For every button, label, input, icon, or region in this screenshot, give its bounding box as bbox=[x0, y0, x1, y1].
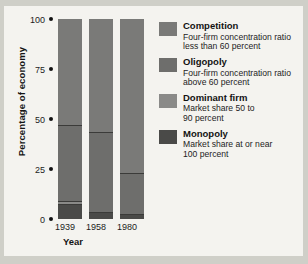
bar-1980[interactable] bbox=[120, 19, 144, 219]
legend-label: Dominant firm bbox=[183, 93, 255, 104]
bar-segment-oligopoly bbox=[120, 173, 144, 214]
chart-figure: Percentage of economy 100 75 50 25 0 193… bbox=[0, 0, 308, 264]
bar-segment-competition bbox=[58, 19, 82, 125]
y-tick-label: 75 bbox=[35, 65, 45, 75]
legend-text-block: Dominant firm Market share 50 to 90 perc… bbox=[183, 93, 255, 124]
y-tick-100: 100 bbox=[0, 14, 53, 24]
y-tick-dot-icon bbox=[49, 17, 53, 21]
y-tick-75: 75 bbox=[0, 64, 53, 74]
legend-description-line2: 100 percent bbox=[183, 150, 272, 160]
y-tick-0: 0 bbox=[0, 214, 53, 224]
legend-swatch-icon bbox=[159, 94, 177, 108]
y-tick-dot-icon bbox=[49, 67, 53, 71]
y-tick-dot-icon bbox=[49, 217, 53, 221]
x-tick-1958: 1958 bbox=[79, 222, 113, 232]
bar-segment-monopoly bbox=[120, 214, 144, 219]
y-axis-title: Percentage of economy bbox=[16, 37, 27, 167]
bar-segment-monopoly bbox=[58, 204, 82, 219]
legend-text-block: Oligopoly Four-firm concentration ratio … bbox=[183, 57, 291, 88]
legend-text-block: Monopoly Market share at or near 100 per… bbox=[183, 129, 272, 160]
legend-label: Monopoly bbox=[183, 129, 272, 140]
legend-description-line2: above 60 percent bbox=[183, 78, 291, 88]
plot-area bbox=[55, 19, 150, 219]
y-tick-label: 50 bbox=[35, 115, 45, 125]
x-tick-1980: 1980 bbox=[110, 222, 144, 232]
legend-swatch-icon bbox=[159, 130, 177, 144]
y-tick-dot-icon bbox=[49, 167, 53, 171]
bar-1939[interactable] bbox=[58, 19, 82, 219]
legend-item-monopoly[interactable]: Monopoly Market share at or near 100 per… bbox=[159, 129, 304, 160]
y-tick-label: 100 bbox=[30, 15, 45, 25]
legend-swatch-icon bbox=[159, 22, 177, 36]
legend-text-block: Competition Four-firm concentration rati… bbox=[183, 21, 291, 52]
legend-label: Oligopoly bbox=[183, 57, 291, 68]
y-tick-25: 25 bbox=[0, 164, 53, 174]
legend-label: Competition bbox=[183, 21, 291, 32]
y-tick-50: 50 bbox=[0, 114, 53, 124]
y-tick-label: 25 bbox=[35, 165, 45, 175]
legend-item-oligopoly[interactable]: Oligopoly Four-firm concentration ratio … bbox=[159, 57, 304, 88]
legend-item-competition[interactable]: Competition Four-firm concentration rati… bbox=[159, 21, 304, 52]
bar-segment-competition bbox=[120, 19, 144, 173]
chart-legend: Competition Four-firm concentration rati… bbox=[159, 21, 304, 165]
x-axis-title: Year bbox=[48, 236, 98, 247]
x-tick-1939: 1939 bbox=[48, 222, 82, 232]
legend-item-dominant-firm[interactable]: Dominant firm Market share 50 to 90 perc… bbox=[159, 93, 304, 124]
y-tick-label: 0 bbox=[40, 215, 45, 225]
legend-swatch-icon bbox=[159, 58, 177, 72]
bar-segment-competition bbox=[89, 19, 113, 132]
bar-segment-oligopoly bbox=[58, 125, 82, 201]
legend-description-line2: less than 60 percent bbox=[183, 42, 291, 52]
bar-1958[interactable] bbox=[89, 19, 113, 219]
bar-segment-monopoly bbox=[89, 212, 113, 219]
legend-description-line2: 90 percent bbox=[183, 114, 255, 124]
y-tick-dot-icon bbox=[49, 117, 53, 121]
bar-segment-oligopoly bbox=[89, 132, 113, 212]
